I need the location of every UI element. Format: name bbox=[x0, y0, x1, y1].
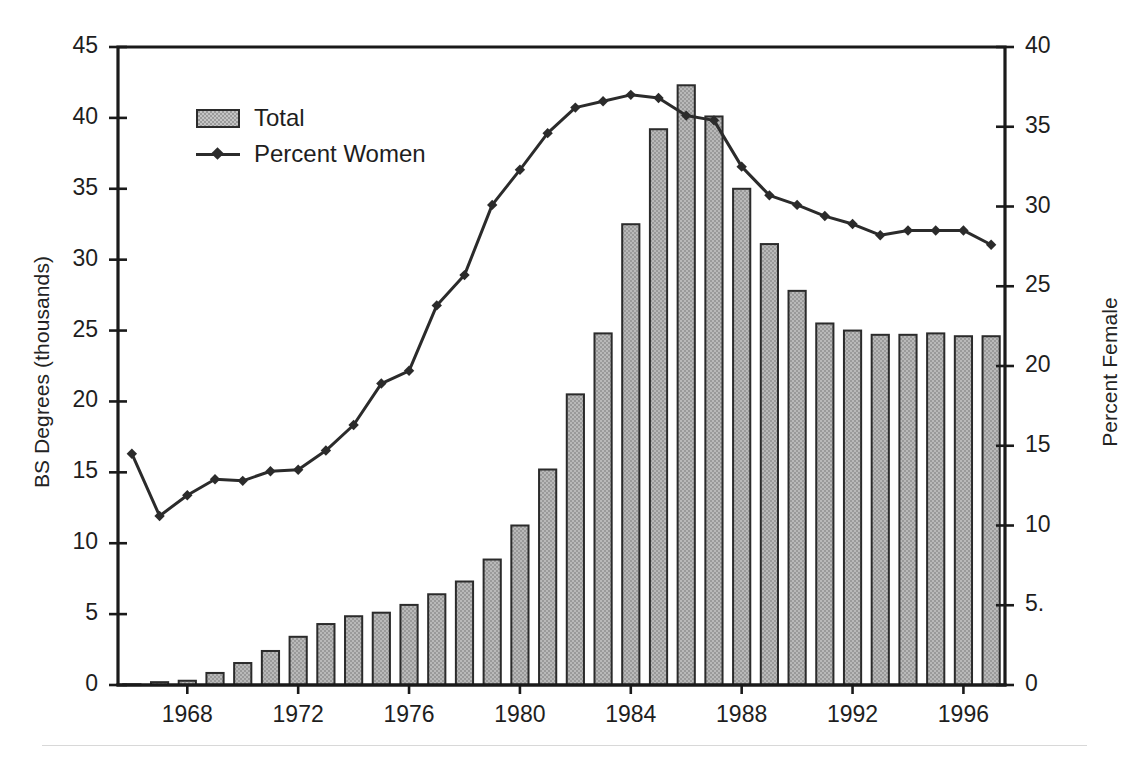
bar-1985 bbox=[650, 129, 667, 685]
bar-1977 bbox=[428, 594, 445, 685]
bar-1987 bbox=[705, 116, 722, 685]
x-tick-label: 1972 bbox=[253, 701, 343, 728]
page-scan-line bbox=[42, 745, 1087, 746]
line-marker-1995 bbox=[931, 225, 941, 235]
line-marker-1996 bbox=[958, 225, 968, 235]
line-marker-swatch-icon bbox=[196, 145, 240, 164]
x-tick-label: 1980 bbox=[475, 701, 565, 728]
bar-series bbox=[123, 85, 999, 685]
line-marker-1984 bbox=[626, 90, 636, 100]
line-marker-1993 bbox=[875, 230, 885, 240]
bar-1971 bbox=[262, 651, 279, 685]
y-left-tick-label: 15 bbox=[38, 457, 98, 484]
bar-1984 bbox=[622, 224, 639, 685]
y-left-tick-label: 35 bbox=[38, 174, 98, 201]
line-marker-1991 bbox=[820, 211, 830, 221]
y-right-tick-label: 25 bbox=[1025, 271, 1085, 298]
bar-1975 bbox=[373, 613, 390, 685]
bar-1979 bbox=[484, 560, 501, 685]
line-marker-1970 bbox=[238, 476, 248, 486]
bar-1981 bbox=[539, 470, 556, 686]
bar-1994 bbox=[899, 335, 916, 685]
bar-1989 bbox=[761, 244, 778, 685]
line-marker-1992 bbox=[847, 219, 857, 229]
legend-item-total: Total bbox=[196, 100, 426, 136]
y-left-tick-label: 5 bbox=[38, 599, 98, 626]
line-marker-1976 bbox=[404, 366, 414, 376]
y-left-tick-label: 0 bbox=[38, 670, 98, 697]
y-right-tick-label: 5. bbox=[1025, 590, 1085, 617]
y-left-tick-label: 40 bbox=[38, 103, 98, 130]
plot-area bbox=[0, 0, 1125, 764]
line-marker-1997 bbox=[986, 240, 996, 250]
bar-1988 bbox=[733, 189, 750, 685]
bar-1996 bbox=[955, 336, 972, 685]
bar-1997 bbox=[983, 336, 1000, 685]
legend-item-percent-women: Percent Women bbox=[196, 136, 426, 172]
bar-1974 bbox=[345, 616, 362, 685]
bar-1993 bbox=[872, 335, 889, 685]
x-tick-label: 1992 bbox=[808, 701, 898, 728]
y-left-tick-label: 10 bbox=[38, 528, 98, 555]
y-right-tick-label: 0 bbox=[1025, 670, 1085, 697]
y-left-tick-label: 45 bbox=[38, 32, 98, 59]
y-left-tick-label: 25 bbox=[38, 316, 98, 343]
line-marker-1994 bbox=[903, 225, 913, 235]
bar-1969 bbox=[206, 673, 223, 685]
legend-label-total: Total bbox=[254, 104, 305, 132]
bar-1995 bbox=[927, 333, 944, 685]
bar-1992 bbox=[844, 331, 861, 685]
bar-swatch-icon bbox=[196, 109, 240, 128]
x-tick-label: 1976 bbox=[364, 701, 454, 728]
chart-figure: BS Degrees (thousands) Percent Female 05… bbox=[0, 0, 1125, 764]
bar-1970 bbox=[234, 663, 251, 685]
bar-1978 bbox=[456, 582, 473, 686]
bar-1976 bbox=[400, 605, 417, 685]
y-left-tick-label: 30 bbox=[38, 245, 98, 272]
bar-1991 bbox=[816, 323, 833, 685]
y-right-tick-label: 15 bbox=[1025, 431, 1085, 458]
bar-1980 bbox=[511, 526, 528, 686]
bar-1973 bbox=[317, 624, 334, 685]
y-right-tick-label: 40 bbox=[1025, 32, 1085, 59]
legend-label-percent-women: Percent Women bbox=[254, 140, 426, 168]
y-right-tick-label: 30 bbox=[1025, 192, 1085, 219]
bar-1990 bbox=[789, 291, 806, 685]
y-left-tick-label: 20 bbox=[38, 386, 98, 413]
bar-1986 bbox=[678, 85, 695, 685]
bar-1983 bbox=[594, 333, 611, 685]
x-tick-label: 1988 bbox=[697, 701, 787, 728]
y-right-tick-label: 20 bbox=[1025, 351, 1085, 378]
chart-legend: Total Percent Women bbox=[196, 100, 426, 172]
y-right-tick-label: 35 bbox=[1025, 112, 1085, 139]
line-marker-1983 bbox=[598, 96, 608, 106]
bar-1972 bbox=[290, 637, 307, 685]
line-marker-1966 bbox=[127, 449, 137, 459]
line-marker-1971 bbox=[265, 466, 275, 476]
x-tick-label: 1996 bbox=[918, 701, 1008, 728]
bar-1982 bbox=[567, 394, 584, 685]
y-right-tick-label: 10 bbox=[1025, 511, 1085, 538]
x-tick-label: 1984 bbox=[586, 701, 676, 728]
x-tick-label: 1968 bbox=[142, 701, 232, 728]
line-marker-1990 bbox=[792, 200, 802, 210]
